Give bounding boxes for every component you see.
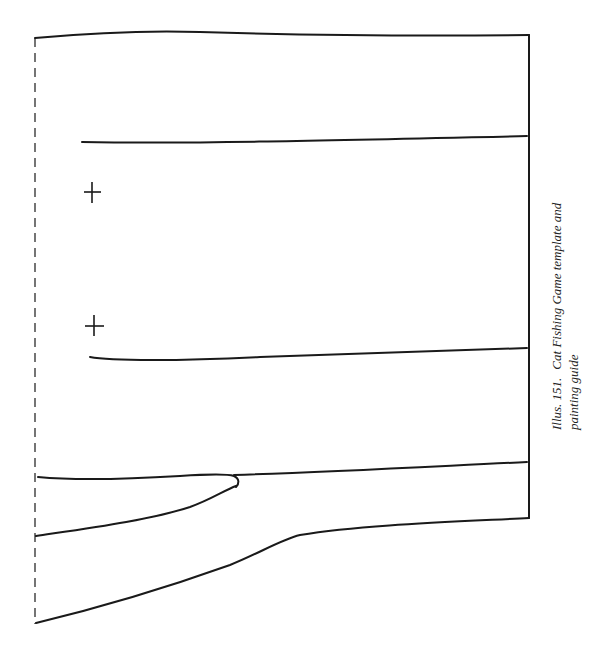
top-edge: [35, 31, 529, 38]
hook-curve: [36, 486, 236, 536]
bottom-edge: [36, 518, 529, 623]
guide-line-2: [90, 348, 527, 360]
caption-label: Illus. 151.: [549, 378, 564, 430]
guide-line-1: [82, 136, 527, 143]
guide-line-3-right: [234, 462, 527, 475]
caption-text-1: Cat Fishing Game template and: [549, 203, 564, 370]
caption-text-2: painting guide: [566, 355, 581, 430]
caption-line-1: Illus. 151.Cat Fishing Game template and: [548, 203, 565, 430]
guide-line-3-left: [38, 475, 238, 488]
cat-fishing-template-drawing: [0, 0, 602, 668]
cross-marker-2: [85, 315, 104, 336]
caption-line-2: painting guide: [565, 203, 582, 430]
figure-caption: Illus. 151.Cat Fishing Game template and…: [548, 203, 582, 430]
cross-marker-1: [84, 182, 101, 203]
